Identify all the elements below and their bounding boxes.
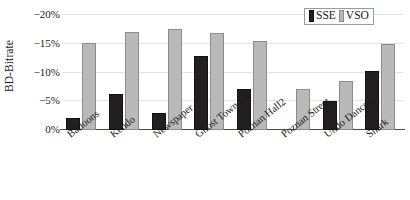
bar-group xyxy=(107,15,150,130)
y-tick-label: −15% xyxy=(16,37,60,49)
x-axis-tick-labels: BalloonsKendoNewspaperGhost Town FlyPozn… xyxy=(63,131,405,200)
y-tick-label: −10% xyxy=(16,66,60,78)
bd-bitrate-bar-chart: BD-Bitrate 0%−5%−10%−15%−20% BalloonsKen… xyxy=(0,0,410,200)
legend-label: VSO xyxy=(346,10,369,22)
legend-label: SSE xyxy=(316,10,336,22)
legend-entry-sse: SSE xyxy=(309,10,336,22)
legend-entry-vso: VSO xyxy=(339,10,369,22)
legend-swatch-sse-icon xyxy=(309,10,314,22)
bar-group xyxy=(64,15,107,130)
y-tick-label: −5% xyxy=(16,94,60,106)
legend: SSEVSO xyxy=(304,8,374,25)
legend-swatch-vso-icon xyxy=(339,10,344,22)
y-tick-label: −20% xyxy=(16,8,60,20)
bar-group xyxy=(363,15,406,130)
bar-sse xyxy=(194,56,208,130)
y-axis-tick-labels: 0%−5%−10%−15%−20% xyxy=(14,0,60,200)
y-tick-label: 0% xyxy=(16,123,60,135)
